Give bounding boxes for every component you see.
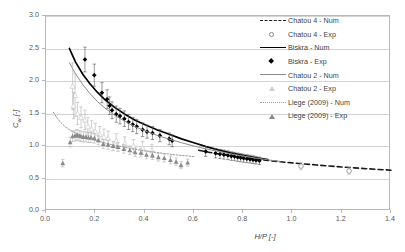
- data-point: [83, 57, 88, 62]
- data-point: [203, 149, 208, 154]
- open-circle-marker-icon: [258, 28, 288, 42]
- data-point: [92, 73, 97, 78]
- y-axis-label-main: C: [11, 123, 20, 128]
- x-tick-label: 0.2: [79, 215, 109, 223]
- legend-item[interactable]: Liege (2009) - Exp: [258, 109, 398, 123]
- y-tick-label: 0.5: [11, 174, 39, 182]
- legend-item[interactable]: Chatou 4 - Exp: [258, 28, 398, 42]
- legend-item-label: Liege (2009) - Exp: [288, 111, 347, 120]
- x-tick-mark: [144, 210, 145, 213]
- x-tick-label: 0.6: [178, 215, 208, 223]
- x-axis-label: H/P [-]: [205, 232, 325, 241]
- x-tick-label: 0.4: [129, 215, 159, 223]
- data-point: [131, 143, 136, 148]
- solid-black-line-icon: [258, 41, 288, 55]
- legend-item-label: Biskra - Exp: [288, 57, 327, 66]
- x-tick-mark: [390, 210, 391, 213]
- y-tick-mark: [42, 113, 45, 114]
- y-tick-mark: [42, 178, 45, 179]
- data-point: [174, 159, 179, 163]
- solid-gray-line-icon: [258, 68, 288, 82]
- legend-item-label: Chatou 4 - Exp: [288, 30, 336, 39]
- data-point: [347, 169, 352, 174]
- legend-item-label: Chatou 2 - Num: [288, 71, 339, 80]
- x-tick-label: 1.4: [375, 215, 405, 223]
- chart-root: 0.00.51.01.52.02.53.0 0.00.20.40.60.81.0…: [0, 0, 405, 252]
- data-point: [150, 153, 155, 157]
- data-point: [144, 152, 149, 156]
- y-tick-mark: [42, 15, 45, 16]
- y-tick-mark: [42, 48, 45, 49]
- x-tick-label: 0.8: [227, 215, 257, 223]
- legend-item[interactable]: Chatou 2 - Num: [258, 68, 398, 82]
- filled-triangle-marker-icon: [258, 109, 288, 123]
- y-axis-label-sub: w: [16, 118, 22, 122]
- y-tick-mark: [42, 145, 45, 146]
- y-tick-label: 2.0: [11, 76, 39, 84]
- filled-diamond-marker-icon: [258, 55, 288, 69]
- data-point: [185, 160, 190, 164]
- legend-item-label: Chatou 2 - Exp: [288, 84, 336, 93]
- x-tick-mark: [193, 210, 194, 213]
- y-axis-label-unit: [-]: [11, 110, 20, 119]
- series-biskra-num: [69, 49, 267, 160]
- y-tick-label: 0.0: [11, 206, 39, 214]
- legend-item[interactable]: Biskra - Num: [258, 41, 398, 55]
- legend-item[interactable]: Chatou 4 - Num: [258, 14, 398, 28]
- x-tick-label: 1.2: [326, 215, 356, 223]
- dash-black-line-icon: [258, 14, 288, 28]
- legend-item-label: Chatou 4 - Num: [288, 16, 339, 25]
- legend-item-label: Liege (2009) - Num: [288, 98, 350, 107]
- open-triangle-marker-icon: [258, 82, 288, 96]
- x-tick-label: 1.0: [276, 215, 306, 223]
- data-point: [70, 84, 75, 89]
- data-point: [60, 161, 65, 165]
- y-tick-label: 3.0: [11, 11, 39, 19]
- legend-item-label: Biskra - Num: [288, 43, 330, 52]
- legend-item[interactable]: Chatou 2 - Exp: [258, 82, 398, 96]
- series-chatou-2-num: [69, 63, 280, 162]
- x-tick-mark: [94, 210, 95, 213]
- data-point: [162, 156, 167, 160]
- y-tick-mark: [42, 80, 45, 81]
- series-biskra-exp: [83, 47, 262, 164]
- data-point: [71, 103, 76, 108]
- x-tick-label: 0.0: [30, 215, 60, 223]
- legend-item[interactable]: Liege (2009) - Num: [258, 96, 398, 110]
- y-axis-label: Cw [-]: [11, 110, 22, 128]
- x-tick-mark: [341, 210, 342, 213]
- data-point: [168, 158, 173, 162]
- y-tick-label: 2.5: [11, 44, 39, 52]
- data-point: [179, 163, 184, 167]
- data-point: [156, 155, 161, 159]
- dotted-gray-line-icon: [258, 96, 288, 110]
- x-tick-mark: [291, 210, 292, 213]
- data-point: [72, 93, 77, 98]
- legend-item[interactable]: Biskra - Exp: [258, 55, 398, 69]
- x-tick-mark: [45, 210, 46, 213]
- y-tick-label: 1.0: [11, 141, 39, 149]
- data-point: [92, 136, 97, 140]
- x-tick-mark: [242, 210, 243, 213]
- data-point: [75, 111, 80, 116]
- data-point: [85, 124, 90, 129]
- chart-legend: Chatou 4 - NumChatou 4 - ExpBiskra - Num…: [258, 14, 398, 123]
- data-point: [299, 164, 304, 169]
- data-point: [68, 140, 73, 144]
